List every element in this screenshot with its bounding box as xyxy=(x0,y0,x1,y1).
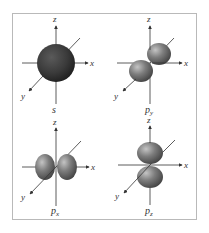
pz-lobe-lower xyxy=(137,166,163,188)
orbital-label-px: px xyxy=(50,205,60,218)
x-axis-label: x xyxy=(183,58,188,68)
panel-py-orbital: z x y py xyxy=(113,14,188,117)
panel-pz-orbital: z x y pz xyxy=(114,115,188,218)
y-axis-label: y xyxy=(20,192,25,202)
y-axis-front xyxy=(123,79,136,91)
z-axis-label: z xyxy=(146,14,151,24)
x-axis-label: x xyxy=(183,160,188,170)
px-lobe-left xyxy=(35,154,55,180)
panel-s-orbital: z x y s xyxy=(20,14,94,115)
atomic-orbitals-diagram: z x y s z x y py z x y px xyxy=(0,0,209,233)
px-lobe-right xyxy=(57,154,77,180)
py-lobe-back xyxy=(147,43,171,65)
panel-px-orbital: z x y px xyxy=(20,117,95,218)
py-lobe-front xyxy=(129,60,153,82)
z-axis-label: z xyxy=(52,14,57,24)
z-axis-label: z xyxy=(146,115,151,125)
orbital-label-pz: pz xyxy=(144,205,153,218)
z-axis-label: z xyxy=(52,117,57,127)
y-axis-front xyxy=(29,76,43,91)
orbital-label-s: s xyxy=(52,104,56,115)
x-axis-label: x xyxy=(90,162,95,172)
y-axis-label: y xyxy=(114,191,119,201)
x-axis-label: x xyxy=(89,58,94,68)
y-axis-label: y xyxy=(113,91,118,101)
y-axis-label: y xyxy=(20,91,25,101)
pz-lobe-upper xyxy=(137,142,163,164)
